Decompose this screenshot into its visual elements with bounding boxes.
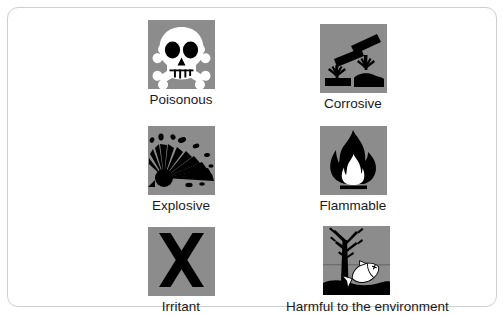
hazard-label-explosive: Explosive [111, 198, 251, 214]
skull-and-crossbones-icon [148, 20, 215, 89]
hazard-label-flammable: Flammable [283, 198, 423, 214]
hazard-label-environment: Harmful to the environment [286, 299, 426, 315]
saint-andrews-cross-icon [148, 227, 215, 296]
hazard-item-flammable: Flammable [283, 126, 423, 214]
hazard-item-corrosive: Corrosive [283, 24, 423, 112]
hazard-label-irritant: Irritant [111, 299, 251, 315]
flame-icon [320, 126, 387, 195]
explosion-icon [148, 126, 215, 195]
dead-tree-and-fish-icon [323, 226, 390, 295]
corrosive-icon [320, 24, 387, 93]
hazard-item-poisonous: Poisonous [111, 20, 251, 108]
hazard-label-corrosive: Corrosive [283, 96, 423, 112]
hazard-item-explosive: Explosive [111, 126, 251, 214]
hazard-label-poisonous: Poisonous [111, 92, 251, 108]
hazard-item-environment: Harmful to the environment [286, 226, 426, 315]
hazard-symbols-card: Poisonous [7, 7, 497, 307]
hazard-item-irritant: Irritant [111, 227, 251, 315]
